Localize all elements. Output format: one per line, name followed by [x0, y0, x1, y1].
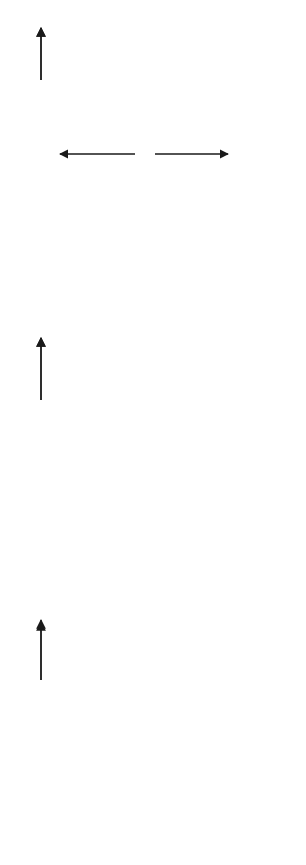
why-why-diagram: [0, 0, 306, 865]
edge-layer-rot: [0, 0, 306, 865]
